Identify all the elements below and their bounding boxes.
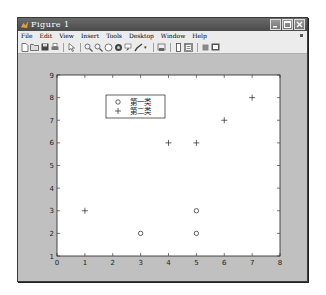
open-file-icon xyxy=(30,43,39,51)
new-figure-button[interactable] xyxy=(20,43,29,52)
maximize-icon xyxy=(283,20,292,29)
zoom-in-button[interactable] xyxy=(84,43,93,52)
y-tick-label: 3 xyxy=(50,207,54,215)
y-tick-label: 2 xyxy=(50,230,54,238)
pan-icon xyxy=(104,43,113,52)
menu-insert[interactable]: Insert xyxy=(81,31,99,41)
x-tick-label: 1 xyxy=(83,259,87,267)
edit-plot-button[interactable] xyxy=(67,43,76,52)
menu-view[interactable]: View xyxy=(59,31,74,41)
pan-button[interactable] xyxy=(104,43,113,52)
close-button[interactable] xyxy=(294,19,305,30)
y-tick-label: 8 xyxy=(50,94,54,102)
menu-bar: File Edit View Insert Tools Desktop Wind… xyxy=(18,31,307,41)
show-plot-tools-icon xyxy=(211,43,220,51)
x-tick-label: 2 xyxy=(111,259,115,267)
toolbar-separator xyxy=(80,43,81,52)
minimize-icon xyxy=(271,20,280,29)
link-plot-button[interactable] xyxy=(157,43,166,52)
brush-button[interactable] xyxy=(134,43,143,52)
title-bar[interactable]: Figure 1 xyxy=(18,18,307,31)
brush-dropdown-arrow-icon[interactable]: ▾ xyxy=(144,44,147,50)
axes-box xyxy=(57,75,280,256)
y-tick-label: 4 xyxy=(50,185,55,193)
y-tick-label: 5 xyxy=(50,162,54,170)
window-title: Figure 1 xyxy=(31,18,70,31)
insert-legend-button[interactable] xyxy=(184,43,193,52)
hide-plot-tools-button[interactable] xyxy=(201,43,210,52)
save-icon xyxy=(41,43,49,51)
menu-file[interactable]: File xyxy=(21,31,33,41)
hide-plot-tools-icon xyxy=(202,44,209,51)
link-plot-icon xyxy=(157,43,166,52)
x-tick-label: 6 xyxy=(222,259,227,267)
menu-desktop[interactable]: Desktop xyxy=(129,31,154,41)
insert-colorbar-button[interactable] xyxy=(174,43,183,52)
y-tick-label: 6 xyxy=(50,139,55,147)
rotate-3d-button[interactable] xyxy=(114,43,123,52)
toolbar-separator xyxy=(170,43,171,52)
close-icon xyxy=(295,20,304,29)
edit-plot-arrow-icon xyxy=(68,43,76,52)
zoom-in-icon xyxy=(84,43,93,52)
data-cursor-button[interactable] xyxy=(124,43,133,52)
matlab-logo-icon xyxy=(20,20,29,29)
maximize-button[interactable] xyxy=(282,19,293,30)
x-tick-label: 3 xyxy=(138,259,142,267)
brush-icon xyxy=(134,43,143,52)
menu-edit[interactable]: Edit xyxy=(40,31,53,41)
scatter-plot[interactable]: 012345678123456789第一类第二类 xyxy=(18,54,307,281)
figure-canvas: 012345678123456789第一类第二类 xyxy=(18,54,307,281)
x-tick-label: 4 xyxy=(166,259,171,267)
print-icon xyxy=(51,43,59,51)
show-plot-tools-button[interactable] xyxy=(211,43,220,52)
menu-window[interactable]: Window xyxy=(161,31,185,41)
menu-dock-arrow-icon[interactable] xyxy=(300,34,303,37)
figure-toolbar: ▾ xyxy=(18,41,307,54)
rotate-3d-icon xyxy=(114,43,123,52)
legend-label: 第一类 xyxy=(130,97,152,107)
menu-tools[interactable]: Tools xyxy=(106,31,122,41)
legend-icon xyxy=(185,44,192,51)
toolbar-separator xyxy=(197,43,198,52)
new-figure-icon xyxy=(21,43,29,52)
x-tick-label: 8 xyxy=(278,259,282,267)
colorbar-icon xyxy=(174,43,183,52)
toolbar-separator xyxy=(63,43,64,52)
open-file-button[interactable] xyxy=(30,43,39,52)
minimize-button[interactable] xyxy=(270,19,281,30)
y-tick-label: 9 xyxy=(50,72,54,80)
save-button[interactable] xyxy=(40,43,49,52)
toolbar-separator xyxy=(153,43,154,52)
print-button[interactable] xyxy=(50,43,59,52)
zoom-out-button[interactable] xyxy=(94,43,103,52)
y-tick-label: 1 xyxy=(50,253,54,261)
zoom-out-icon xyxy=(94,43,103,52)
x-tick-label: 0 xyxy=(55,259,59,267)
x-tick-label: 7 xyxy=(250,259,254,267)
data-cursor-icon xyxy=(124,43,133,52)
y-tick-label: 7 xyxy=(50,117,54,125)
x-tick-label: 5 xyxy=(194,259,198,267)
legend-label: 第二类 xyxy=(130,106,152,116)
figure-window: Figure 1 File Edit View Insert Tools Des… xyxy=(17,17,308,282)
menu-help[interactable]: Help xyxy=(192,31,207,41)
